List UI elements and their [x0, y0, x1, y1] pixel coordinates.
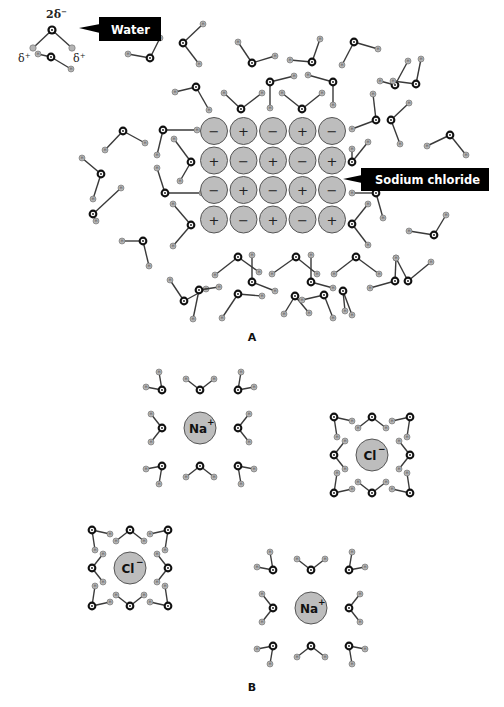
- svg-text:H: H: [70, 67, 73, 71]
- chloride-ion: −: [319, 118, 346, 145]
- svg-text:H: H: [240, 370, 243, 374]
- svg-text:+: +: [327, 213, 338, 228]
- water-molecule: HH: [183, 462, 217, 480]
- svg-text:H: H: [367, 243, 370, 247]
- svg-text:−: −: [297, 213, 308, 228]
- water-molecule: HH: [299, 291, 336, 321]
- sodium-ion-label: Na: [189, 422, 207, 436]
- water-molecule: HH: [348, 201, 371, 248]
- svg-text:H: H: [174, 90, 177, 94]
- svg-text:H: H: [214, 273, 217, 277]
- water-molecule: HH: [345, 642, 368, 667]
- svg-text:H: H: [289, 58, 292, 62]
- svg-text:+: +: [318, 597, 326, 607]
- svg-text:H: H: [81, 156, 84, 160]
- water-molecule: HH: [234, 411, 252, 445]
- svg-text:H: H: [149, 600, 152, 604]
- svg-text:H: H: [395, 256, 398, 260]
- sodium-hydration-shell: HHHHHHHHHHHHHHHHNa+: [254, 549, 368, 667]
- sodium-ion: +: [319, 147, 346, 174]
- svg-text:H: H: [185, 377, 188, 381]
- svg-text:H: H: [172, 202, 175, 206]
- chloride-ion: −: [201, 177, 228, 204]
- water-molecule: HH: [307, 252, 336, 291]
- svg-text:−: −: [327, 183, 338, 198]
- water-molecule: HH: [331, 253, 382, 277]
- svg-text:H: H: [258, 270, 261, 274]
- sodium-chloride-lattice: −+−+−+−+−+−+−+−+−+−+: [201, 118, 346, 234]
- water-molecule: HH: [355, 479, 389, 497]
- svg-text:H: H: [344, 439, 347, 443]
- svg-text:H: H: [378, 272, 381, 276]
- panel-b-label: B: [248, 681, 256, 694]
- svg-text:H: H: [336, 435, 339, 439]
- svg-text:H: H: [144, 141, 147, 145]
- chloride-ion-label: Cl: [122, 562, 135, 576]
- svg-text:H: H: [261, 294, 264, 298]
- water-molecule: HH: [113, 526, 147, 544]
- water-molecule: HH: [389, 413, 414, 440]
- svg-text:+: +: [297, 124, 308, 139]
- svg-text:H: H: [408, 229, 411, 233]
- water-molecule: HH: [221, 90, 265, 113]
- water-molecule: HH: [88, 583, 113, 610]
- water-molecule: HH: [219, 290, 265, 321]
- svg-text:+: +: [297, 183, 308, 198]
- svg-text:H: H: [391, 419, 394, 423]
- svg-text:H: H: [143, 539, 146, 543]
- svg-text:H: H: [172, 244, 175, 248]
- svg-text:H: H: [351, 191, 354, 195]
- svg-text:H: H: [256, 565, 259, 569]
- svg-text:H: H: [319, 37, 322, 41]
- svg-text:H: H: [109, 600, 112, 604]
- hydrogen-partial-charge-left: δ+: [18, 52, 31, 65]
- svg-text:H: H: [351, 550, 354, 554]
- svg-text:H: H: [149, 532, 152, 536]
- svg-text:H: H: [369, 286, 372, 290]
- svg-text:+: +: [327, 154, 338, 169]
- svg-text:H: H: [465, 153, 468, 157]
- svg-text:H: H: [213, 475, 216, 479]
- svg-text:H: H: [145, 467, 148, 471]
- svg-text:H: H: [169, 278, 172, 282]
- svg-text:H: H: [269, 662, 272, 666]
- svg-text:H: H: [115, 593, 118, 597]
- water-molecule: HH: [355, 413, 389, 431]
- svg-text:H: H: [37, 52, 40, 56]
- svg-text:H: H: [95, 219, 98, 223]
- svg-text:H: H: [281, 91, 284, 95]
- water-callout-label: Water: [111, 23, 150, 37]
- svg-text:H: H: [392, 79, 395, 83]
- water-molecule: HH: [279, 90, 325, 113]
- svg-text:H: H: [357, 480, 360, 484]
- svg-text:H: H: [115, 539, 118, 543]
- svg-text:H: H: [406, 435, 409, 439]
- svg-text:H: H: [253, 467, 256, 471]
- svg-text:H: H: [408, 101, 411, 105]
- svg-text:−: −: [268, 124, 279, 139]
- svg-text:+: +: [268, 213, 279, 228]
- svg-text:H: H: [296, 557, 299, 561]
- svg-text:H: H: [248, 440, 251, 444]
- sodium-ion: +: [319, 206, 346, 233]
- chloride-ion: −: [230, 206, 257, 233]
- svg-text:H: H: [121, 239, 124, 243]
- svg-text:H: H: [179, 179, 182, 183]
- water-molecule: HH: [259, 591, 277, 625]
- svg-text:H: H: [251, 253, 254, 257]
- svg-text:H: H: [385, 426, 388, 430]
- water-molecule: HH: [254, 642, 277, 667]
- svg-text:H: H: [274, 289, 277, 293]
- svg-text:H: H: [120, 186, 123, 190]
- svg-text:H: H: [221, 316, 224, 320]
- svg-text:H: H: [344, 309, 347, 313]
- water-molecule: HH: [330, 438, 348, 472]
- svg-text:H: H: [274, 54, 277, 58]
- svg-text:H: H: [324, 557, 327, 561]
- sodium-ion: +: [201, 147, 228, 174]
- water-molecule: HH: [183, 376, 217, 394]
- svg-text:H: H: [382, 216, 385, 220]
- svg-text:H: H: [398, 467, 401, 471]
- svg-text:H: H: [293, 74, 296, 78]
- water-molecule: HH: [235, 39, 278, 67]
